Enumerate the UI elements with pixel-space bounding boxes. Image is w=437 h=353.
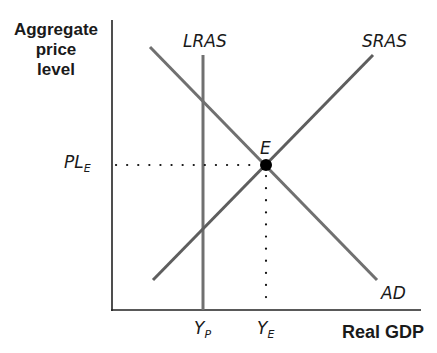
y-axis-label-line1: Aggregate xyxy=(8,20,104,40)
yp-label: YP xyxy=(194,318,211,341)
y-axis-label-line3: level xyxy=(8,60,104,80)
equilibrium-label: E xyxy=(260,138,271,158)
pl-e-label: PLE xyxy=(64,152,91,175)
ad-label: AD xyxy=(381,283,406,303)
equilibrium-point xyxy=(260,159,272,171)
y-axis-label: Aggregate price level xyxy=(8,20,104,80)
x-axis-label: Real GDP xyxy=(342,322,424,343)
sras-label: SRAS xyxy=(362,31,407,51)
lras-label: LRAS xyxy=(183,31,227,51)
ye-label: YE xyxy=(257,318,274,341)
y-axis-label-line2: price xyxy=(8,40,104,60)
